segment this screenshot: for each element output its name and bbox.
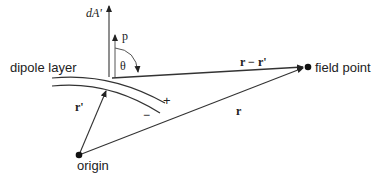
dipole-layer-diagram: dA' p θ dipole layer r − r' field point … (0, 0, 377, 182)
theta-angle-arc (115, 48, 138, 72)
field-point-dot (305, 64, 312, 71)
rprime-label: r' (75, 100, 84, 114)
plus-sign-label: + (163, 93, 171, 108)
r-minus-rprime-label: r − r' (240, 55, 267, 69)
dipole-layer-label: dipole layer (10, 60, 77, 75)
field-point-label: field point (315, 60, 371, 75)
r-vector (79, 68, 303, 155)
dA-label: dA' (86, 6, 102, 20)
p-label: p (122, 29, 128, 43)
origin-label: origin (77, 158, 109, 173)
theta-label: θ (120, 59, 126, 73)
minus-sign-label: − (143, 108, 150, 122)
r-label: r (236, 104, 242, 118)
r-minus-rprime-vector (112, 67, 303, 78)
